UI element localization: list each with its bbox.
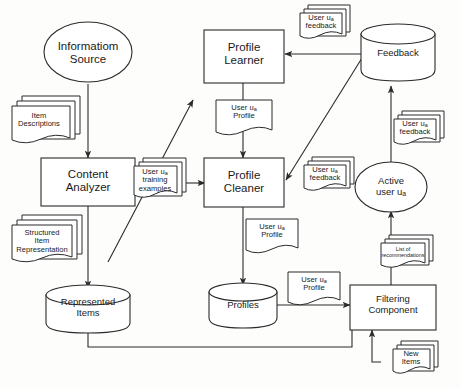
node-shape-feedback-doc-right[interactable] — [394, 111, 444, 144]
node-shape-new-items[interactable] — [393, 341, 438, 373]
node-shape-item-descriptions[interactable] — [12, 96, 80, 143]
node-shape-structured-item-representation[interactable] — [12, 215, 82, 262]
node-shape-profile-doc-top[interactable] — [216, 100, 272, 135]
node-shape-profile-learner[interactable] — [204, 30, 284, 83]
node-shape-feedback-store[interactable] — [361, 24, 435, 81]
node-shape-feedback-doc-top[interactable] — [300, 5, 350, 38]
node-shape-information-source[interactable] — [44, 22, 132, 82]
node-shape-profile-doc-bottom[interactable] — [288, 272, 340, 305]
node-shape-active-user[interactable] — [355, 162, 427, 212]
node-shape-training-examples[interactable] — [134, 158, 186, 197]
node-shape-represented-items[interactable] — [46, 285, 130, 333]
diagram-canvas: Informatiom Source Item Descriptions Con… — [0, 0, 460, 389]
node-shape-feedback-doc-mid[interactable] — [304, 157, 354, 190]
node-shape-profiles[interactable] — [209, 283, 277, 328]
node-shape-list-of-recommendations[interactable] — [381, 235, 433, 267]
node-shape-content-analyzer[interactable] — [41, 158, 135, 206]
node-shape-profile-cleaner[interactable] — [204, 158, 284, 207]
node-shape-profile-doc-mid[interactable] — [246, 219, 298, 253]
diagram-vector-layer — [0, 0, 460, 389]
node-shape-filtering-component[interactable] — [350, 285, 436, 330]
edge-newitems-to-filtering — [372, 330, 381, 362]
